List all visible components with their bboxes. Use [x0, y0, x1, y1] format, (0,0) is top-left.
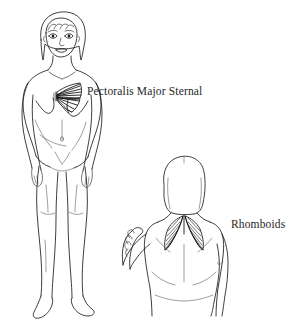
neck-left	[48, 56, 53, 70]
rhomboid-left-patch	[165, 216, 183, 250]
neck-right	[71, 56, 76, 70]
right-clavicle	[62, 72, 75, 79]
left-foot	[33, 296, 53, 318]
right-pupil	[68, 35, 71, 38]
right-knee	[69, 212, 83, 214]
rhomboid-right-patch	[185, 216, 203, 250]
right-ear	[78, 36, 80, 42]
posterior-female-figure	[122, 156, 228, 316]
back-head-hair	[164, 156, 206, 214]
pectoralis-major-sternal-label: Pectoralis Major Sternal	[87, 86, 202, 98]
back-arm-right-outer	[222, 234, 228, 316]
leg-right-inner	[66, 172, 72, 298]
back-torso-right	[210, 222, 224, 316]
groin-line	[62, 152, 70, 164]
leg-right-outer	[82, 167, 87, 296]
left-breast	[36, 98, 54, 113]
hair-contour	[168, 178, 170, 209]
back-shading	[193, 272, 216, 285]
nose	[60, 38, 64, 46]
hair-contour	[199, 178, 201, 209]
leg-shading	[75, 185, 77, 212]
groin-line	[55, 152, 62, 164]
right-hand-finger	[88, 177, 89, 185]
pectoralis-major-sternal-muscle	[54, 83, 82, 113]
right-foot	[71, 296, 94, 316]
leg-left-inner	[52, 172, 58, 298]
right-hand-finger	[85, 177, 86, 185]
anterior-female-figure	[22, 12, 102, 318]
left-knee	[41, 212, 55, 214]
pelvis-curve	[50, 167, 74, 171]
leg-shading	[45, 240, 46, 272]
left-hand-finger	[34, 176, 36, 183]
arm-left-outer	[22, 83, 32, 168]
neck-right-back	[197, 213, 210, 222]
torso-shading	[35, 120, 52, 148]
left-pupil	[52, 35, 55, 38]
left-clavicle	[49, 72, 62, 79]
leg-shading	[46, 185, 48, 212]
anatomy-illustration-page: Pectoralis Major Sternal Rhomboids	[0, 0, 306, 324]
back-torso-left	[144, 222, 158, 316]
rhomboids-label: Rhomboids	[231, 219, 285, 231]
anatomy-figures-svg	[0, 0, 306, 324]
bangs-stroke	[66, 25, 74, 29]
left-eyebrow	[48, 30, 57, 32]
right-eyebrow	[65, 30, 74, 32]
torso-shading	[72, 122, 86, 150]
neck-left-back	[158, 213, 171, 222]
left-ear	[44, 36, 46, 42]
raised-arm-upper-inner	[130, 244, 150, 269]
back-arm-right-inner	[211, 244, 219, 316]
waist-hip-curve	[155, 295, 213, 301]
back-shading	[152, 272, 175, 285]
